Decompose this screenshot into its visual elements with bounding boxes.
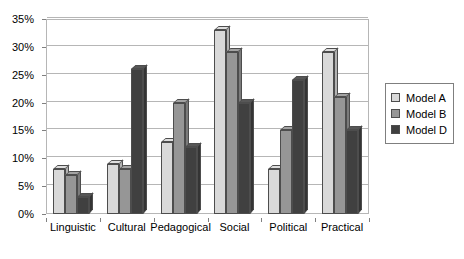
legend-item[interactable]: Model D <box>391 122 447 137</box>
bar-front-face <box>334 97 346 214</box>
bar <box>119 169 131 214</box>
bar-front-face <box>346 130 358 214</box>
bar-side-face <box>197 142 201 214</box>
bar <box>226 52 238 214</box>
bar-group <box>100 19 154 214</box>
x-axis-tick-mark <box>46 218 47 222</box>
bar-front-face <box>268 169 280 214</box>
y-axis-tick-mark <box>42 214 46 215</box>
bar <box>292 80 304 214</box>
bar <box>346 130 358 214</box>
legend-item[interactable]: Model A <box>391 90 447 105</box>
x-axis-tick-label: Political <box>269 221 307 233</box>
bar <box>268 169 280 214</box>
bar-front-face <box>53 169 65 214</box>
y-axis-tick-label: 15% <box>12 124 34 136</box>
x-axis-tick-mark <box>315 218 316 222</box>
bar-front-face <box>185 147 197 214</box>
bar <box>185 147 197 214</box>
bar-side-face <box>358 126 362 214</box>
x-axis-tick-label: Practical <box>321 221 363 233</box>
bar <box>107 164 119 214</box>
gridline <box>47 17 368 18</box>
y-axis-tick-label: 35% <box>12 13 34 25</box>
legend-swatch-icon <box>391 125 400 134</box>
y-axis-tick-label: 20% <box>12 97 34 109</box>
bar <box>334 97 346 214</box>
bars-layer <box>46 19 369 214</box>
bar-front-face <box>292 80 304 214</box>
x-axis-tick-mark <box>261 218 262 222</box>
bar-group <box>208 19 262 214</box>
legend-item[interactable]: Model B <box>391 106 447 121</box>
bar-group <box>154 19 208 214</box>
x-axis-tick-mark <box>369 218 370 222</box>
bar-front-face <box>214 30 226 214</box>
bar-side-face <box>143 64 147 214</box>
bar <box>131 69 143 214</box>
bar <box>280 130 292 214</box>
bar-side-face <box>250 98 254 214</box>
bar-front-face <box>173 103 185 214</box>
x-axis-tick-label: Cultural <box>108 221 146 233</box>
bar-front-face <box>280 130 292 214</box>
x-axis-tick-label: Linguistic <box>50 221 96 233</box>
legend-item-label: Model B <box>406 108 446 120</box>
bar-front-face <box>238 103 250 214</box>
legend-swatch-icon <box>391 93 400 102</box>
bar-group <box>46 19 100 214</box>
bar-front-face <box>161 142 173 214</box>
bar-front-face <box>65 175 77 214</box>
bar <box>53 169 65 214</box>
x-axis-tick-label: Pedagogical <box>150 221 211 233</box>
bar <box>77 197 89 214</box>
legend-swatch-icon <box>391 109 400 118</box>
legend-item-label: Model D <box>406 124 447 136</box>
bar <box>65 175 77 214</box>
bar-front-face <box>322 52 334 214</box>
bar-group <box>261 19 315 214</box>
bar-front-face <box>131 69 143 214</box>
bar-front-face <box>119 169 131 214</box>
bar-front-face <box>77 197 89 214</box>
bar <box>214 30 226 214</box>
y-axis-tick-label: 10% <box>12 152 34 164</box>
y-axis-tick-label: 5% <box>18 180 34 192</box>
y-axis: 0%5%10%15%20%25%30%35% <box>0 0 42 259</box>
bar <box>173 103 185 214</box>
bar <box>238 103 250 214</box>
y-axis-tick-label: 30% <box>12 41 34 53</box>
bar-front-face <box>226 52 238 214</box>
x-axis-tick-mark <box>208 218 209 222</box>
bar-group <box>315 19 369 214</box>
x-axis-tick-mark <box>100 218 101 222</box>
chart-legend: Model AModel BModel D <box>385 83 454 144</box>
x-axis-tick-mark <box>154 218 155 222</box>
bar-side-face <box>304 76 308 214</box>
x-axis: LinguisticCulturalPedagogicalSocialPolit… <box>46 218 369 242</box>
x-axis-tick-label: Social <box>219 221 249 233</box>
y-axis-tick-label: 0% <box>18 208 34 220</box>
bar <box>161 142 173 214</box>
bar <box>322 52 334 214</box>
y-axis-tick-label: 25% <box>12 69 34 81</box>
bar-front-face <box>107 164 119 214</box>
bar-chart: 0%5%10%15%20%25%30%35% LinguisticCultura… <box>0 0 464 259</box>
legend-item-label: Model A <box>406 92 446 104</box>
